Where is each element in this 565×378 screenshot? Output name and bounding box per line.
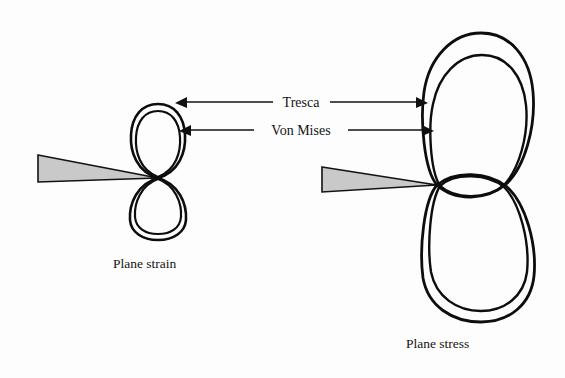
plane-strain-group: Plane strain: [38, 104, 186, 271]
caption-plane-strain: Plane strain: [113, 256, 177, 271]
von-mises-arrowhead-right: [422, 125, 434, 136]
crack-wedge-plane-stress: [322, 167, 437, 192]
label-tresca: Tresca: [283, 95, 321, 110]
von-mises-annotation: Von Mises: [179, 123, 434, 138]
tresca-contour-plane-stress-upper: [423, 33, 534, 197]
plane-stress-group: Plane stress: [322, 33, 534, 351]
tresca-contour-plane-strain-lower: [130, 178, 186, 240]
tresca-contour-plane-strain-upper: [131, 104, 185, 178]
von-mises-contour-plane-strain-upper: [136, 111, 180, 177]
tresca-annotation: Tresca: [175, 95, 428, 110]
caption-plane-stress: Plane stress: [406, 336, 469, 351]
diagram-canvas: Plane strain Plane stress Tresca: [0, 0, 565, 378]
plastic-zone-figure: Plane strain Plane stress Tresca: [0, 0, 565, 378]
label-von-mises: Von Mises: [271, 123, 330, 138]
tresca-arrowhead-left: [175, 97, 187, 108]
